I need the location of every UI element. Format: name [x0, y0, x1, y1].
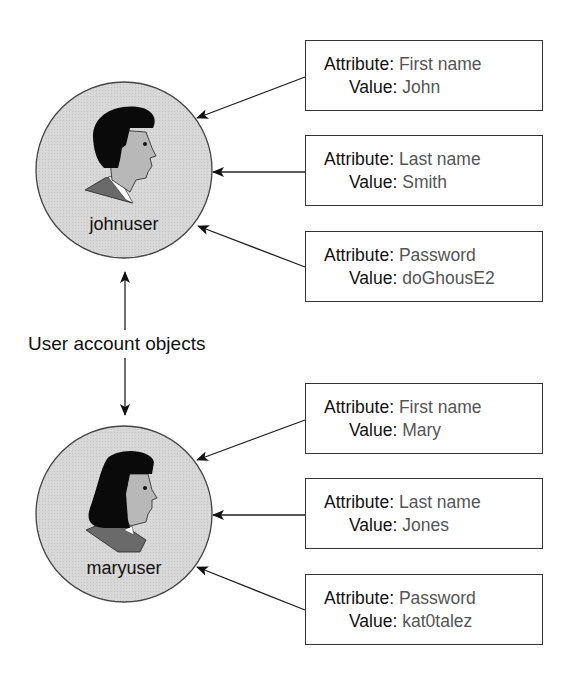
maryuser-label: maryuser: [44, 558, 204, 579]
johnuser-label: johnuser: [44, 214, 204, 235]
arrow-first-name-john: [197, 77, 305, 118]
value-label: Value:: [349, 172, 397, 192]
attribute-box-john-first-name: Attribute: First name Value: John: [305, 40, 543, 111]
attribute-value: kat0talez: [402, 611, 472, 631]
attribute-label: Attribute:: [324, 149, 394, 169]
attribute-box-john-last-name: Attribute: Last name Value: Smith: [305, 135, 543, 206]
arrow-password-john: [198, 226, 305, 267]
attribute-name: First name: [399, 397, 482, 417]
attribute-value: John: [402, 77, 440, 97]
attribute-name: Password: [399, 588, 476, 608]
attribute-box-mary-last-name: Attribute: Last name Value: Jones: [305, 478, 543, 549]
attribute-value: Mary: [402, 420, 441, 440]
attribute-label: Attribute:: [324, 54, 394, 74]
attribute-value: Jones: [402, 515, 449, 535]
attribute-box-mary-password: Attribute: Password Value: kat0talez: [305, 574, 543, 645]
attribute-box-john-password: Attribute: Password Value: doGhousE2: [305, 231, 543, 302]
attribute-name: Last name: [399, 492, 481, 512]
attribute-box-mary-first-name: Attribute: First name Value: Mary: [305, 383, 543, 454]
attribute-name: First name: [399, 54, 482, 74]
value-label: Value:: [349, 420, 397, 440]
attribute-value: doGhousE2: [402, 268, 494, 288]
value-label: Value:: [349, 611, 397, 631]
attribute-label: Attribute:: [324, 588, 394, 608]
attribute-label: Attribute:: [324, 397, 394, 417]
value-label: Value:: [349, 268, 397, 288]
value-label: Value:: [349, 77, 397, 97]
attribute-label: Attribute:: [324, 492, 394, 512]
attribute-label: Attribute:: [324, 245, 394, 265]
caption-user-account-objects: User account objects: [28, 333, 205, 355]
attribute-name: Password: [399, 245, 476, 265]
attribute-name: Last name: [399, 149, 481, 169]
arrow-first-name-mary: [197, 420, 305, 460]
value-label: Value:: [349, 515, 397, 535]
arrow-password-mary: [197, 567, 305, 610]
attribute-value: Smith: [402, 172, 447, 192]
